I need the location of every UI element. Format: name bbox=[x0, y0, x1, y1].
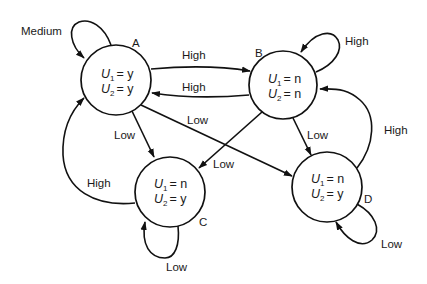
state-b: U1= n U2= n B bbox=[249, 47, 317, 119]
state-a-u1: U1= y bbox=[101, 67, 134, 83]
state-b-label: B bbox=[255, 47, 263, 59]
edge-label-a-b: High bbox=[182, 49, 206, 61]
state-a-label: A bbox=[132, 37, 140, 49]
edge-label-d-b: High bbox=[384, 124, 408, 136]
edge-label-b-c: Low bbox=[213, 158, 235, 170]
state-c-u2: U2= y bbox=[154, 192, 187, 208]
edge-label-a-d: Low bbox=[187, 114, 209, 126]
edge-a-b-high bbox=[151, 67, 250, 71]
edge-label-a-c: Low bbox=[114, 129, 136, 141]
state-b-u1: U1= n bbox=[268, 72, 301, 88]
state-a: U1= y U2= y A bbox=[81, 37, 151, 115]
edge-a-c-low bbox=[132, 111, 154, 157]
edge-label-b-d: Low bbox=[307, 129, 329, 141]
state-c-label: C bbox=[199, 216, 207, 228]
edge-label-c-a: High bbox=[87, 177, 111, 189]
state-c: U1= n U2= y C bbox=[135, 157, 207, 228]
state-a-u2: U2= y bbox=[101, 82, 134, 98]
edge-label-b-a: High bbox=[182, 81, 206, 93]
edge-label-c-c: Low bbox=[166, 261, 188, 273]
state-d-u2: U2= y bbox=[311, 187, 344, 203]
state-b-u2: U2= n bbox=[268, 87, 301, 103]
state-d-label: D bbox=[364, 193, 372, 205]
state-d-u1: U1= n bbox=[311, 172, 344, 188]
state-c-u1: U1= n bbox=[154, 177, 187, 193]
edge-label-b-b: High bbox=[345, 35, 369, 47]
edge-b-a-high bbox=[152, 93, 249, 97]
edge-label-a-a: Medium bbox=[21, 25, 62, 37]
state-diagram: U1= y U2= y A U1= n U2= n B U1= n U2= y … bbox=[0, 0, 427, 284]
edge-label-d-d: Low bbox=[381, 238, 403, 250]
